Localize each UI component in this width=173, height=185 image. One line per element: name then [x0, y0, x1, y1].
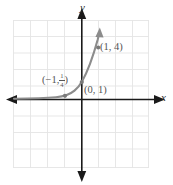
curve-arrow-up — [95, 28, 103, 38]
y-axis-arrow-down — [77, 171, 86, 182]
point-label-open-paren: (−1, — [42, 74, 59, 85]
y-axis-label: y — [80, 2, 85, 13]
fraction-numerator: 1 — [59, 73, 64, 81]
point-label-1-4: (1, 4) — [100, 42, 123, 53]
point-label-close-paren: ) — [65, 74, 69, 85]
exponential-function-graph: y x (1, 4) (0, 1) (−1,14) — [0, 0, 173, 185]
fraction-denominator: 4 — [59, 81, 64, 88]
marker-neg1-quarter — [63, 94, 67, 98]
x-axis-label: x — [161, 92, 166, 103]
point-label-0-1: (0, 1) — [84, 85, 107, 96]
point-label-neg1-quarter: (−1,14) — [42, 73, 68, 88]
fraction-one-quarter: 14 — [59, 73, 64, 88]
